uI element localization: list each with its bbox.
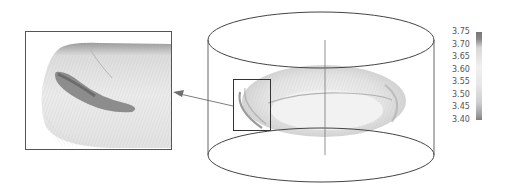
colorbar-tick: 3.70 [452, 41, 470, 49]
cylinder [208, 12, 434, 182]
arrow-line [180, 94, 233, 106]
colorbar-tick: 3.65 [452, 53, 470, 61]
ring-inner [271, 90, 383, 130]
colorbar-tick: 3.75 [452, 28, 470, 36]
cylinder-top-ellipse [208, 12, 434, 68]
colorbar-tick: 3.60 [452, 66, 470, 74]
inset-view [26, 32, 172, 149]
diagram-canvas [0, 0, 507, 190]
arrow-head-icon [173, 90, 184, 97]
colorbar-tick: 3.40 [452, 116, 470, 124]
colorbar-tick: 3.50 [452, 91, 470, 99]
colorbar-tick: 3.45 [452, 103, 470, 111]
figure: 3.75 3.70 3.65 3.60 3.55 3.50 3.45 3.40 [0, 0, 507, 190]
colorbar-gradient [476, 32, 482, 120]
colorbar-tick: 3.55 [452, 78, 470, 86]
